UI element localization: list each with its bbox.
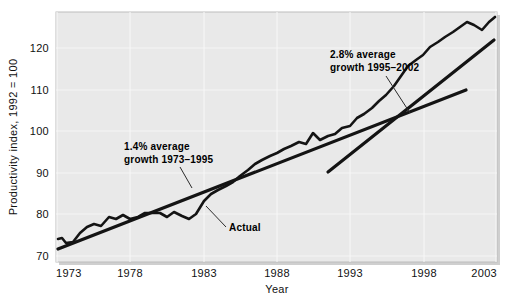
y-tick-label-110: 110 — [31, 84, 49, 96]
chart-canvas: 1.4% average growth 1973–1995 2.8% avera… — [0, 0, 516, 299]
annotation-actual-label: Actual — [229, 222, 261, 233]
x-tick-label-1978: 1978 — [117, 267, 143, 279]
x-tick-label-1983: 1983 — [191, 267, 217, 279]
x-tick-label-1998: 1998 — [411, 267, 437, 279]
y-tick-label-90: 90 — [36, 167, 49, 179]
x-tick-label-1993: 1993 — [337, 267, 363, 279]
x-tick-label-1988: 1988 — [264, 267, 290, 279]
productivity-chart-figure: 1.4% average growth 1973–1995 2.8% avera… — [0, 0, 516, 299]
annotation-late-trend-line2: growth 1995–2002 — [330, 62, 420, 73]
annotation-early-trend-line1: 1.4% average — [124, 141, 190, 152]
y-tick-label-80: 80 — [36, 208, 49, 220]
annotation-late-trend-line1: 2.8% average — [330, 49, 396, 60]
x-tick-label-1973: 1973 — [56, 267, 82, 279]
annotation-early-trend-line2: growth 1973–1995 — [124, 154, 214, 165]
x-tick-label-2003: 2003 — [471, 267, 497, 279]
y-tick-label-70: 70 — [36, 250, 49, 262]
y-axis-title: Productivity index, 1992 = 100 — [7, 59, 19, 216]
y-tick-label-120: 120 — [30, 42, 49, 54]
y-tick-label-100: 100 — [30, 125, 49, 137]
x-axis-title: Year — [265, 283, 288, 295]
